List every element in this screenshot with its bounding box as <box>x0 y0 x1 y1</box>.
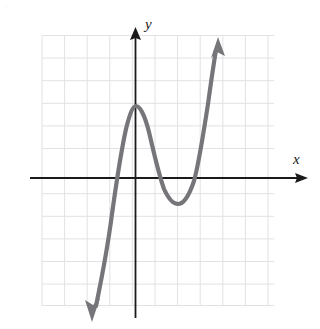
x-axis-label: x <box>293 152 300 167</box>
curve-arrow-down <box>85 298 100 322</box>
y-axis-label: y <box>145 17 152 32</box>
coordinate-plane-svg <box>0 0 320 329</box>
graph-figure: ... <box>0 0 320 329</box>
x-axis <box>30 173 308 183</box>
y-axis <box>130 27 141 318</box>
